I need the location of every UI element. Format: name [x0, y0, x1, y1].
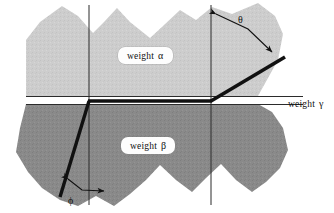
alpha-symbol: α: [158, 50, 163, 61]
weight-alpha-word: weight: [127, 51, 154, 61]
theta-angle-label: θ: [238, 14, 243, 25]
weight-gamma-label: weightγ: [288, 98, 324, 109]
weight-beta-label: weightβ: [121, 137, 175, 154]
phi-angle-label: ϕ: [68, 195, 73, 206]
diagram-svg: [0, 0, 334, 213]
weight-gamma-word: weight: [288, 99, 315, 109]
beta-symbol: β: [161, 140, 166, 151]
weight-beta-word: weight: [130, 141, 157, 151]
weight-alpha-label: weightα: [118, 47, 173, 64]
figure-canvas: weightα weightβ weightγ θ ϕ: [0, 0, 334, 213]
lower-grain-region: [16, 104, 288, 206]
gamma-symbol: γ: [319, 98, 324, 109]
